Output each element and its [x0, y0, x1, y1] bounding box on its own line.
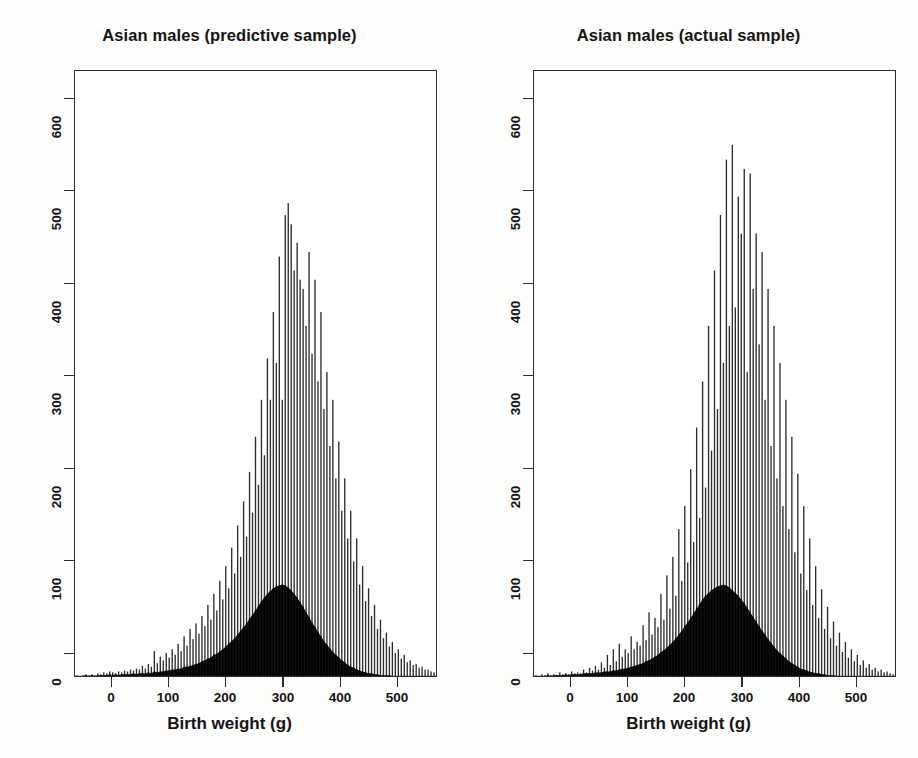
histogram-bar — [791, 437, 792, 677]
histogram-bar — [815, 566, 816, 677]
histogram-bar — [344, 662, 345, 677]
histogram-bar — [416, 664, 417, 677]
histogram-bar — [693, 613, 694, 677]
histogram-bar — [243, 627, 244, 677]
xtick-label-100: 100 — [616, 690, 639, 705]
histogram-bar — [857, 655, 858, 677]
xtick-mark-500 — [856, 677, 857, 687]
xtick-mark-400 — [799, 677, 800, 687]
ytick-mark-400 — [64, 283, 74, 284]
baseline — [533, 676, 896, 677]
histogram-bar — [622, 669, 623, 677]
histogram-bar — [755, 622, 756, 677]
histogram-bar — [851, 649, 852, 677]
ytick-label-500: 500 — [508, 190, 523, 248]
histogram-bar — [794, 665, 795, 677]
xtick-mark-100 — [627, 677, 628, 687]
ytick-label-200: 200 — [49, 468, 64, 526]
histogram-bar — [732, 590, 733, 677]
xtick-mark-300 — [282, 677, 283, 687]
histogram-bar — [773, 326, 774, 677]
histogram-bar — [180, 669, 181, 677]
histogram-bar — [323, 641, 324, 677]
histogram-bar — [696, 609, 697, 677]
histogram-bar — [207, 659, 208, 677]
ytick-mark-400 — [523, 283, 533, 284]
histogram-bar — [648, 660, 649, 677]
histogram-bar — [195, 664, 196, 677]
histogram-bar — [213, 655, 214, 677]
histogram-bar — [726, 586, 727, 677]
histogram-bar — [198, 663, 199, 677]
ytick-label-0: 0 — [508, 653, 523, 711]
histogram-bar — [645, 661, 646, 677]
xaxis-title-predictive: Birth weight (g) — [0, 714, 459, 734]
histogram-bar — [818, 618, 819, 677]
histogram-bar — [633, 666, 634, 677]
histogram-bar — [332, 652, 333, 677]
histogram-bar — [654, 657, 655, 677]
histogram-bar — [314, 627, 315, 677]
ytick-label-300: 300 — [49, 375, 64, 433]
histogram-bar — [750, 173, 751, 677]
histogram-bar — [329, 446, 330, 677]
xtick-mark-200 — [225, 677, 226, 687]
histogram-bar — [755, 234, 756, 677]
histogram-bar — [189, 666, 190, 677]
xtick-mark-400 — [340, 677, 341, 687]
histogram-bar — [714, 588, 715, 677]
histogram-bar — [821, 589, 822, 677]
histogram-bar — [350, 667, 351, 677]
histogram-bar — [404, 655, 405, 677]
histogram-bar — [657, 655, 658, 677]
histogram-bar — [332, 400, 333, 677]
histogram-bar — [705, 596, 706, 677]
histogram-bar — [395, 653, 396, 677]
histogram-bar — [636, 665, 637, 677]
histogram-bar — [681, 631, 682, 677]
histogram-bar — [320, 636, 321, 677]
ytick-mark-500 — [64, 190, 74, 191]
histogram-bar — [264, 598, 265, 677]
histogram-bar — [204, 660, 205, 677]
ytick-mark-300 — [64, 375, 74, 376]
baseline — [74, 676, 437, 677]
histogram-bar — [380, 620, 381, 677]
bars-spiky-predictive — [76, 203, 434, 677]
xtick-label-100: 100 — [157, 690, 180, 705]
histogram-bar — [776, 478, 777, 677]
histogram-bar — [767, 289, 768, 677]
histogram-bar — [234, 638, 235, 677]
histogram-bar — [246, 623, 247, 677]
histogram-bar — [684, 626, 685, 677]
panel-predictive: Asian males (predictive sample) 0 100 20… — [0, 0, 459, 758]
histogram-bar — [630, 667, 631, 677]
histogram-bar — [335, 478, 336, 677]
histogram-bar — [675, 638, 676, 677]
histogram-bar — [231, 641, 232, 677]
histogram-bar — [305, 612, 306, 677]
histogram-bar — [779, 363, 780, 677]
histogram-bar — [708, 593, 709, 677]
ytick-label-0: 0 — [49, 653, 64, 711]
histogram-bar — [359, 585, 360, 677]
histogram-bar — [836, 646, 837, 677]
histogram-bar — [782, 506, 783, 677]
histogram-bar — [833, 622, 834, 677]
histogram-bar — [371, 616, 372, 677]
histogram-bar — [746, 608, 747, 677]
xtick-mark-500 — [397, 677, 398, 687]
histogram-bar — [741, 599, 742, 677]
histogram-bar — [255, 610, 256, 677]
panel-actual: Asian males (actual sample) 0 100 200 30… — [459, 0, 918, 758]
histogram-bar — [398, 649, 399, 677]
histogram-bar — [326, 372, 327, 677]
histogram-bar — [225, 647, 226, 677]
figure-canvas: Asian males (predictive sample) 0 100 20… — [0, 0, 918, 758]
histogram-bar — [210, 658, 211, 677]
histogram-bar — [744, 169, 745, 677]
histogram-bar — [624, 669, 625, 677]
histogram-bar — [699, 604, 700, 677]
ytick-mark-200 — [523, 468, 533, 469]
histogram-bar — [296, 598, 297, 677]
